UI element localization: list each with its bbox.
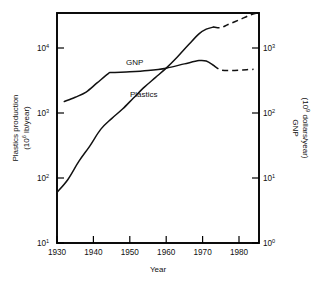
gnp-curve-label: GNP bbox=[126, 58, 143, 67]
figure-container: 104 103 102 101 103 102 bbox=[0, 0, 312, 283]
x-tick-label-1940: 1940 bbox=[84, 248, 103, 257]
plastics-curve-label: Plastics bbox=[130, 90, 158, 99]
y-axis-title-left-line1: Plastics production bbox=[11, 94, 20, 161]
x-tick-label-1950: 1950 bbox=[121, 248, 140, 257]
y-axis-title-right-line2: (109 dollars/year) bbox=[301, 98, 311, 159]
x-axis-title: Year bbox=[150, 265, 167, 274]
x-tick-label-1970: 1970 bbox=[193, 248, 212, 257]
x-tick-label-1980: 1980 bbox=[230, 248, 249, 257]
x-tick-label-1960: 1960 bbox=[157, 248, 176, 257]
plastics-gnp-log-chart: 104 103 102 101 103 102 bbox=[0, 0, 312, 283]
y-axis-title-left-line2: (106 lb/year) bbox=[21, 106, 31, 150]
x-tick-label-1930: 1930 bbox=[48, 248, 67, 257]
y-axis-title-right-line1: GNP bbox=[291, 119, 300, 136]
